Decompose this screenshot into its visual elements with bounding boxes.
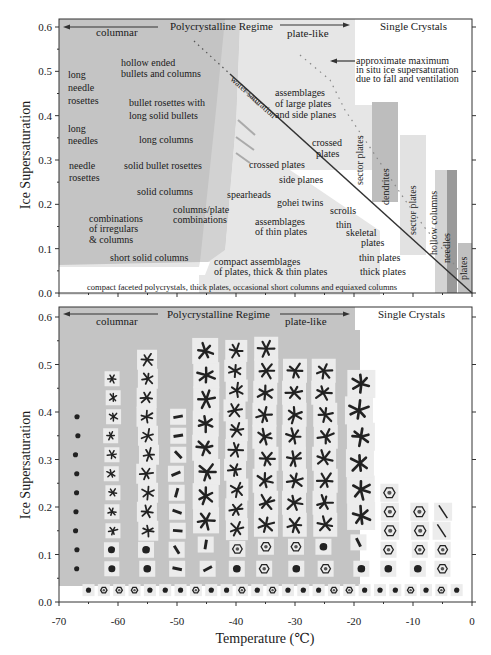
crystal-image	[328, 584, 340, 596]
crystal-image	[75, 433, 80, 438]
crystal-image	[224, 360, 246, 382]
crystal-image	[312, 447, 336, 471]
header-columnar: columnar	[96, 26, 138, 38]
crystal-image	[313, 584, 325, 596]
label-thick-plates: thick plates	[360, 266, 406, 277]
bottom-y-axis-label: Ice Supersaturation	[18, 411, 33, 519]
x-tick-label: -70	[52, 615, 67, 627]
crystal-image	[374, 584, 386, 596]
crystal-image	[192, 435, 218, 461]
crystal-image	[194, 459, 220, 485]
crystal-image	[236, 584, 248, 596]
crystal-image	[225, 498, 247, 520]
crystal-image	[251, 584, 263, 596]
crystal-image	[434, 561, 450, 577]
crystal-image	[254, 513, 278, 537]
crystal-image	[389, 584, 401, 596]
crystal-image	[138, 483, 158, 503]
crystal-image	[283, 513, 307, 537]
crystal-image	[106, 409, 121, 424]
crystal-image	[282, 447, 306, 471]
y-tick-label: 0.0	[38, 596, 52, 608]
crystal-image	[347, 502, 375, 530]
crystal-image	[252, 425, 276, 449]
crystal-image	[346, 449, 374, 477]
crystal-image	[347, 370, 375, 398]
crystal-image	[74, 490, 79, 495]
crystal-image	[104, 561, 119, 576]
crystal-image	[311, 381, 335, 405]
crystal-image	[297, 584, 309, 596]
bottom-header-columnar: columnar	[96, 315, 138, 327]
crystal-image	[288, 561, 304, 577]
crystal-image	[175, 584, 187, 596]
label-needles: needles	[441, 233, 452, 263]
y-tick-label: 0.2	[38, 198, 52, 210]
crystal-image	[282, 381, 306, 405]
crystal-image	[169, 561, 185, 577]
crystal-image	[282, 584, 294, 596]
crystal-image	[73, 452, 78, 457]
crystal-image	[73, 528, 78, 533]
crystal-image	[283, 469, 307, 493]
y-tick-label: 0.3	[38, 454, 52, 466]
crystal-image	[434, 503, 452, 521]
crystal-image	[138, 521, 158, 541]
label-gohei-twins: gohei twins	[277, 197, 323, 208]
crystal-image	[254, 337, 278, 361]
y-tick-label: 0.1	[38, 243, 52, 255]
crystal-image	[380, 561, 396, 577]
crystal-image	[282, 425, 306, 449]
crystal-image	[343, 584, 355, 596]
crystal-image	[139, 561, 155, 577]
crystal-image	[381, 542, 397, 558]
label-sector-plates-2: sector plates	[407, 185, 418, 235]
y-tick-label: 0.5	[38, 359, 52, 371]
crystal-image	[138, 369, 158, 389]
crystal-image	[226, 419, 248, 441]
crystal-image	[258, 539, 274, 555]
x-tick-label: -10	[406, 615, 421, 627]
crystal-image	[169, 504, 185, 520]
crystal-image	[170, 523, 186, 539]
y-tick-label: 0.6	[38, 21, 52, 33]
crystal-image	[410, 561, 426, 577]
crystal-image	[253, 469, 277, 493]
crystal-image	[98, 584, 110, 596]
crystal-image	[318, 561, 334, 577]
crystal-image	[104, 466, 119, 481]
crystal-image	[253, 381, 277, 405]
crystal-image	[283, 359, 307, 383]
crystal-image	[313, 513, 337, 537]
crystal-image	[451, 584, 463, 596]
crystal-image	[226, 479, 248, 501]
crystal-image	[190, 584, 202, 596]
label-long-columns: long columns	[139, 134, 193, 145]
crystal-image	[433, 522, 451, 540]
crystal-image	[350, 534, 366, 550]
label-short-solid-columns: short solid columns	[110, 252, 188, 263]
crystal-image	[347, 476, 375, 504]
header-regime: Polycrystalline Regime	[170, 20, 273, 32]
label-solid-columns: solid columns	[137, 186, 193, 197]
label-columns-plate: columns/platecombinations	[173, 204, 230, 225]
crystal-image	[347, 423, 375, 451]
y-tick-label: 0.0	[38, 287, 52, 299]
label-thin-plates: thin plates	[359, 252, 400, 263]
y-tick-label: 0.6	[38, 311, 52, 323]
crystal-image	[137, 388, 157, 408]
label-assemblages-thin: assemblagesof thin plates	[255, 216, 307, 237]
crystal-image	[129, 584, 141, 596]
label-bottom-band: compact faceted polycrystals, thick plat…	[87, 282, 397, 292]
crystal-image	[267, 584, 279, 596]
crystal-image	[435, 584, 447, 596]
crystal-image	[315, 539, 331, 555]
crystal-image	[314, 469, 338, 493]
crystal-image	[205, 584, 217, 596]
crystal-image	[170, 428, 186, 444]
crystal-image	[159, 584, 171, 596]
crystal-image	[137, 350, 157, 370]
top-y-axis-label: Ice Supersaturation	[18, 101, 33, 209]
x-tick-label: -20	[347, 615, 362, 627]
crystal-image	[105, 485, 120, 500]
